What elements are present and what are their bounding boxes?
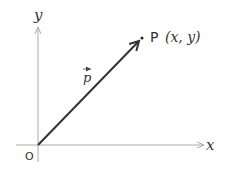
point-coords: (x, y) bbox=[165, 29, 201, 45]
vector-p bbox=[38, 41, 139, 145]
x-axis-label: x bbox=[206, 136, 215, 154]
vector-label: p bbox=[83, 70, 92, 85]
point-p-dot bbox=[141, 37, 144, 40]
point-label: P (x, y) bbox=[150, 29, 201, 45]
vector-diagram: y x O p P (x, y) bbox=[0, 0, 229, 172]
y-axis-label: y bbox=[33, 6, 43, 24]
point-name: P bbox=[150, 29, 158, 45]
origin-label: O bbox=[25, 150, 34, 163]
